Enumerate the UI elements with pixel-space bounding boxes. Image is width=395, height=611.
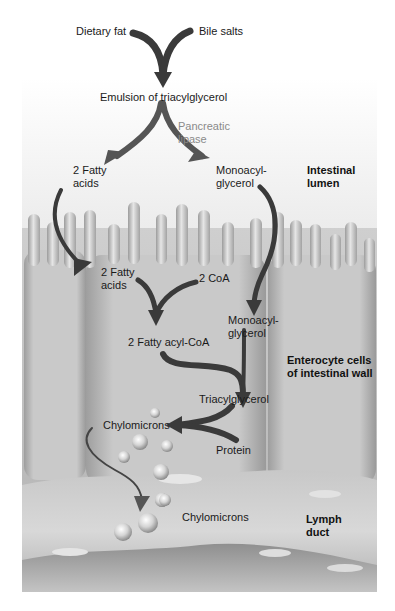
region-label-lymph-line1: Lymph (306, 513, 342, 526)
endothelial-cell (327, 564, 363, 572)
region-label-lumen-line1: Intestinal (307, 164, 355, 177)
label-emulsion: Emulsion of triacylglycerol (100, 91, 227, 104)
endothelial-cell (52, 548, 88, 556)
label-monoacylglycerol-cell-line2: glycerol (228, 327, 266, 340)
label-fatty-acids-lumen-line2: acids (73, 177, 99, 190)
label-pancreatic-lipase-line2: lipase (178, 133, 207, 146)
label-triacylglycerol: Triacylglycerol (199, 393, 269, 406)
label-fatty-acids-cell-line2: acids (101, 279, 127, 292)
label-bile-salts: Bile salts (199, 25, 243, 38)
label-dietary-fat: Dietary fat (76, 25, 126, 38)
label-monoacylglycerol-lumen-line1: Monoacyl- (216, 164, 267, 177)
region-label-lymph-line2: duct (306, 526, 329, 539)
endothelial-cell (259, 549, 291, 557)
label-fatty-acids-cell-line1: 2 Fatty (101, 266, 135, 279)
label-pancreatic-lipase-line1: Pancreatic (178, 120, 230, 133)
endothelial-cell (309, 490, 341, 498)
label-protein: Protein (216, 444, 251, 457)
region-label-lumen-line2: lumen (307, 177, 339, 190)
label-fatty-acyl-coa: 2 Fatty acyl-CoA (128, 336, 209, 349)
label-monoacylglycerol-cell-line1: Monoacyl- (228, 314, 279, 327)
label-chylomicrons-cell: Chylomicrons (103, 419, 170, 432)
region-label-enterocyte-line1: Enterocyte cells (287, 354, 371, 367)
region-label-enterocyte-line2: of intestinal wall (287, 367, 373, 380)
fat-absorption-diagram: Dietary fat Bile salts Emulsion of triac… (0, 0, 395, 611)
label-fatty-acids-lumen-line1: 2 Fatty (73, 164, 107, 177)
label-coa: 2 CoA (199, 272, 230, 285)
label-chylomicrons-lymph: Chylomicrons (182, 511, 249, 524)
enterocyte-cell-left (24, 250, 86, 480)
label-monoacylglycerol-lumen-line2: glycerol (216, 177, 254, 190)
